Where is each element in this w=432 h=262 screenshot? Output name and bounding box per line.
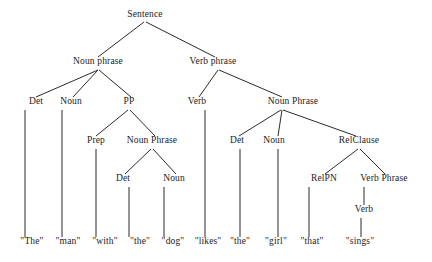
tree-leaf-word-man: "man" (56, 236, 81, 247)
tree-edge-layer (0, 0, 432, 262)
tree-edge-np-pp-to-noun-3 (153, 149, 176, 174)
tree-edge-np-subject-to-pp (99, 70, 131, 97)
tree-edge-np-object-to-relclause (283, 110, 356, 136)
tree-edge-relclause-to-relpn (325, 149, 358, 174)
tree-edge-vp-main-to-np-object (219, 70, 282, 97)
tree-node-vp-main: Verb phrase (190, 56, 237, 67)
tree-leaf-word-the-3: "the" (230, 236, 250, 247)
tree-node-det-1: Det (29, 96, 43, 107)
tree-node-verb-1: Verb (188, 96, 207, 107)
tree-edge-np-subject-to-det-1 (36, 70, 98, 97)
tree-node-det-3: Det (116, 173, 130, 184)
tree-edge-np-object-to-noun-2 (278, 110, 282, 136)
tree-node-np-object: Noun Phrase (268, 96, 318, 107)
tree-node-noun-1: Noun (60, 96, 82, 107)
tree-node-noun-3: Noun (163, 173, 185, 184)
tree-leaf-word-dog: "dog" (162, 236, 185, 247)
tree-edge-sentence-to-vp-main (146, 22, 215, 57)
tree-edge-pp-to-prep (96, 110, 128, 136)
tree-leaf-word-with: "with" (92, 236, 118, 247)
tree-node-np-subject: Noun phrase (73, 56, 123, 67)
syntax-tree-figure: SentenceNoun phraseVerb phraseDetNounPPV… (0, 0, 432, 262)
tree-leaf-word-girl: "girl" (265, 236, 287, 247)
tree-node-verb-2: Verb (355, 204, 374, 215)
tree-node-np-pp: Noun Phrase (127, 135, 177, 146)
tree-node-pp: PP (124, 96, 135, 107)
tree-node-sentence: Sentence (127, 9, 163, 20)
tree-edge-pp-to-np-pp (130, 110, 155, 136)
tree-leaf-word-sings: "sings" (346, 236, 374, 247)
tree-node-vp-rel: Verb Phrase (360, 173, 407, 184)
tree-leaf-word-the-1: "The" (20, 236, 43, 247)
tree-node-relpn: RelPN (311, 173, 337, 184)
tree-edge-sentence-to-np-subject (98, 22, 144, 57)
tree-node-relclause: RelClause (339, 135, 379, 146)
tree-edge-vp-main-to-verb-1 (199, 70, 218, 97)
tree-leaf-word-the-2: "the" (130, 236, 150, 247)
tree-node-prep: Prep (87, 135, 105, 146)
tree-edge-np-object-to-det-2 (239, 110, 281, 136)
tree-edge-np-pp-to-det-3 (125, 149, 151, 174)
tree-leaf-word-that: "that" (301, 236, 324, 247)
tree-node-det-2: Det (230, 135, 244, 146)
tree-edge-relclause-to-vp-rel (360, 149, 385, 174)
tree-leaf-word-likes: "likes" (195, 236, 222, 247)
tree-edge-np-subject-to-noun-1 (73, 70, 98, 97)
tree-edges (25, 22, 385, 237)
tree-node-noun-2: Noun (263, 135, 285, 146)
